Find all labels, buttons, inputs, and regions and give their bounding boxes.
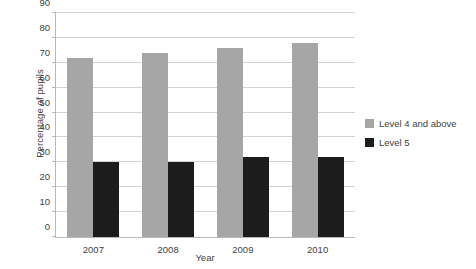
bar	[318, 157, 344, 237]
legend-swatch-icon	[365, 138, 374, 147]
category-group: 2009	[206, 13, 281, 237]
bar	[142, 53, 168, 237]
bar-pair	[206, 13, 281, 237]
bar	[217, 48, 243, 237]
bars-layer: 2007200820092010	[56, 13, 355, 237]
legend-entry: Level 4 and above	[365, 118, 457, 129]
y-axis-tick-label: 90	[39, 0, 50, 8]
legend-label: Level 5	[379, 137, 410, 148]
bar-pair	[280, 13, 355, 237]
y-axis-tick-label: 80	[39, 21, 50, 32]
plot-area: 0102030405060708090 2007200820092010	[55, 13, 355, 238]
y-axis-tick-label: 50	[39, 96, 50, 107]
y-axis-tick-label: 0	[45, 221, 50, 232]
bar-pair	[56, 13, 131, 237]
y-axis-tick-label: 10	[39, 196, 50, 207]
y-axis-tick-label: 60	[39, 71, 50, 82]
bar	[93, 162, 119, 237]
bar-chart: Percentage of pupils 0102030405060708090…	[0, 0, 476, 269]
y-axis-tick-label: 20	[39, 171, 50, 182]
category-group: 2010	[280, 13, 355, 237]
bar	[67, 58, 93, 237]
bar	[292, 43, 318, 237]
y-axis-tick-label: 30	[39, 146, 50, 157]
bar	[168, 162, 194, 237]
legend-entry: Level 5	[365, 137, 457, 148]
category-group: 2008	[131, 13, 206, 237]
y-axis-tick-label: 70	[39, 46, 50, 57]
bar-pair	[131, 13, 206, 237]
legend-swatch-icon	[365, 119, 374, 128]
y-axis-tick-label: 40	[39, 121, 50, 132]
x-axis-title: Year	[55, 252, 355, 263]
category-group: 2007	[56, 13, 131, 237]
legend-label: Level 4 and above	[379, 118, 457, 129]
bar	[243, 157, 269, 237]
chart-legend: Level 4 and aboveLevel 5	[365, 118, 457, 148]
